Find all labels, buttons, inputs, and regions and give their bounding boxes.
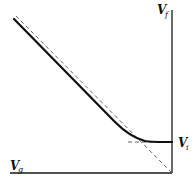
x-axis-label: V g (10, 159, 23, 174)
plateau-label-sub: i (186, 143, 189, 152)
y-axis-label: V f (157, 3, 170, 19)
diagonal-asymptote (16, 16, 172, 173)
x-axis-label-sub: g (18, 165, 23, 174)
diagram-canvas: V f V i V g (0, 0, 196, 186)
plateau-label: V i (178, 136, 189, 152)
y-axis-label-sub: f (164, 10, 170, 19)
